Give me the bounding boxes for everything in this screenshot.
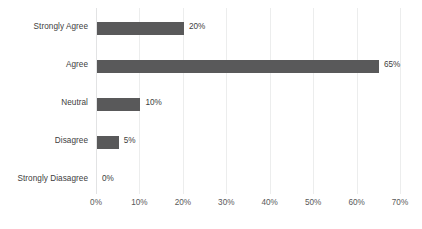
x-tick-label: 0% <box>76 196 116 210</box>
value-label: 65% <box>384 58 400 71</box>
bar-wrapper <box>97 22 184 35</box>
bar-disagree <box>97 136 119 149</box>
chart-rows: Strongly Agree 20% Agree 65% Neutral 10%… <box>0 0 422 194</box>
bar-strongly-agree <box>97 22 184 35</box>
chart-row: Disagree 5% <box>0 136 422 149</box>
x-tick-label: 20% <box>163 196 203 210</box>
chart-row: Strongly Agree 20% <box>0 22 422 35</box>
x-tick-label: 30% <box>206 196 246 210</box>
value-label: 5% <box>124 134 136 147</box>
value-label: 0% <box>102 172 114 185</box>
x-tick-label: 40% <box>250 196 290 210</box>
bar-wrapper <box>97 98 140 111</box>
chart-row: Neutral 10% <box>0 98 422 111</box>
category-label: Disagree <box>0 134 88 147</box>
x-axis-tick-labels: 0% 10% 20% 30% 40% 50% 60% 70% <box>0 196 422 210</box>
bar-chart-figure: Strongly Agree 20% Agree 65% Neutral 10%… <box>0 0 422 229</box>
bar-wrapper <box>97 60 379 73</box>
category-label: Strongly Agree <box>0 20 88 33</box>
category-label: Strongly Diasagree <box>0 172 88 185</box>
x-tick-label: 70% <box>380 196 420 210</box>
bar-agree <box>97 60 379 73</box>
chart-row: Strongly Diasagree 0% <box>0 174 422 187</box>
category-label: Neutral <box>0 96 88 109</box>
chart-row: Agree 65% <box>0 60 422 73</box>
figure-caption <box>8 219 418 229</box>
x-tick-label: 60% <box>337 196 377 210</box>
value-label: 20% <box>189 20 205 33</box>
x-tick-label: 50% <box>293 196 333 210</box>
bar-wrapper <box>97 136 119 149</box>
category-label: Agree <box>0 58 88 71</box>
value-label: 10% <box>146 96 162 109</box>
x-tick-label: 10% <box>119 196 159 210</box>
bar-neutral <box>97 98 140 111</box>
